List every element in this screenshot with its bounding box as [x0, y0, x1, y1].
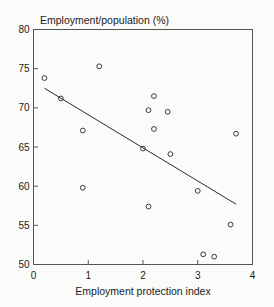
x-axis-title: Employment protection index — [75, 285, 211, 297]
data-point — [201, 252, 206, 257]
y-tick-label-75: 75 — [18, 63, 30, 74]
x-axis-ticks — [88, 260, 198, 265]
data-point — [234, 131, 239, 136]
data-point — [228, 222, 233, 227]
y-tick-label-70: 70 — [18, 102, 30, 113]
x-tick-label-0: 0 — [31, 270, 37, 281]
y-tick-label-65: 65 — [18, 142, 30, 153]
x-tick-label-3: 3 — [195, 270, 201, 281]
figure-container: Employment/population (%) 50556065707580… — [0, 0, 274, 307]
y-axis-title: Employment/population (%) — [40, 14, 169, 26]
regression-line — [44, 88, 236, 204]
x-tick-label-4: 4 — [250, 270, 256, 281]
data-point — [212, 254, 217, 259]
data-points — [42, 64, 238, 259]
data-point — [42, 76, 47, 81]
data-point — [195, 188, 200, 193]
y-tick-label-60: 60 — [18, 181, 30, 192]
trend-line — [44, 88, 236, 204]
data-point — [168, 152, 173, 157]
data-point — [165, 109, 170, 114]
scatter-plot: Employment/population (%) 50556065707580… — [0, 0, 274, 307]
y-axis-tick-labels: 50556065707580 — [18, 24, 30, 270]
data-point — [146, 204, 151, 209]
data-point — [152, 127, 157, 132]
data-point — [80, 185, 85, 190]
y-tick-label-55: 55 — [18, 220, 30, 231]
x-tick-label-1: 1 — [85, 270, 91, 281]
x-tick-label-2: 2 — [140, 270, 146, 281]
plot-frame — [34, 30, 253, 265]
data-point — [146, 108, 151, 113]
data-point — [97, 64, 102, 69]
data-point — [152, 94, 157, 99]
data-point — [80, 128, 85, 133]
x-axis-tick-labels: 01234 — [31, 270, 256, 281]
y-tick-label-50: 50 — [18, 259, 30, 270]
y-tick-label-80: 80 — [18, 24, 30, 35]
y-axis-ticks — [34, 30, 39, 265]
